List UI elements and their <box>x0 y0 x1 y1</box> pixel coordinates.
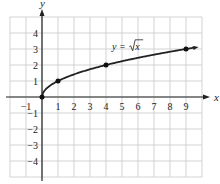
y-tick-label: −4 <box>27 156 38 167</box>
sqrt-curve <box>42 47 196 97</box>
x-tick-label: 3 <box>88 101 93 112</box>
y-tick-label: −3 <box>27 140 38 151</box>
x-tick-label: 1 <box>56 101 61 112</box>
equation-radicand: x <box>134 41 140 52</box>
x-tick-label: 2 <box>72 101 77 112</box>
x-tick-label: 8 <box>168 101 173 112</box>
y-tick-label: 2 <box>33 60 38 71</box>
y-tick-label: −1 <box>27 108 38 119</box>
x-tick-label: 6 <box>136 101 141 112</box>
x-axis-label: x <box>213 91 219 103</box>
equation-label: y = x <box>111 40 143 52</box>
y-tick-label: 1 <box>33 76 38 87</box>
y-tick-label: 3 <box>33 44 38 55</box>
equation-prefix: y = <box>111 41 128 52</box>
x-tick-label: 4 <box>104 101 109 112</box>
data-point <box>40 95 45 100</box>
y-tick-label: −2 <box>27 124 38 135</box>
x-axis-arrow <box>203 95 210 100</box>
data-point <box>56 79 61 84</box>
y-axis-label: y <box>39 0 45 9</box>
y-tick-label: 4 <box>33 28 38 39</box>
chart: −11234567894321−1−2−3−4 x y y = x <box>0 0 220 184</box>
x-tick-label: 5 <box>120 101 125 112</box>
data-point <box>184 47 189 52</box>
data-point <box>104 63 109 68</box>
x-tick-label: 7 <box>152 101 157 112</box>
data-points <box>40 46 199 100</box>
y-axis-arrow <box>40 9 45 16</box>
equation-text: y = x <box>111 41 140 52</box>
x-tick-label: 9 <box>184 101 189 112</box>
